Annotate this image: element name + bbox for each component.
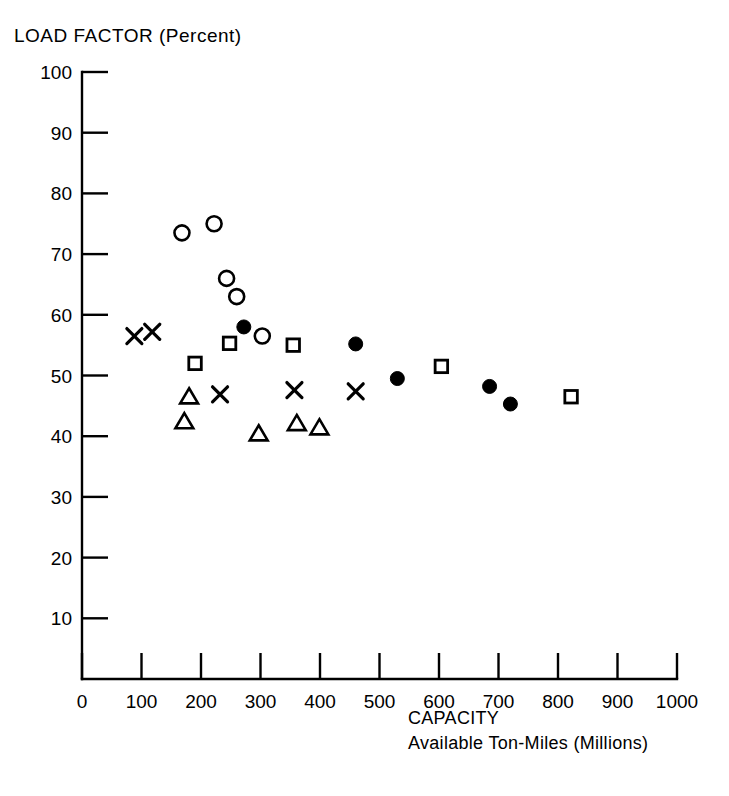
x-axis-tick-label: 300: [245, 691, 277, 712]
y-axis-tick-label: 70: [51, 244, 72, 265]
x-axis-tick-label: 800: [542, 691, 574, 712]
marker-triangle-open-icon: [175, 413, 193, 428]
marker-square-open-icon: [223, 337, 236, 350]
y-axis-tick-label: 30: [51, 487, 72, 508]
series-open-triangle: [175, 388, 328, 440]
marker-circle-open-icon: [207, 216, 222, 231]
marker-circle-filled-icon: [349, 337, 363, 351]
marker-square-open-icon: [435, 360, 448, 373]
x-axis-tick-label: 900: [602, 691, 634, 712]
series-cross-x: [127, 324, 363, 402]
chart-figure: LOAD FACTOR (Percent) 102030405060708090…: [0, 0, 729, 796]
y-axis-tick-label: 60: [51, 305, 72, 326]
marker-square-open-icon: [565, 390, 578, 403]
y-axis-tick-label: 90: [51, 123, 72, 144]
marker-square-open-icon: [189, 357, 202, 370]
data-markers-group: [127, 216, 577, 440]
marker-circle-open-icon: [219, 271, 234, 286]
marker-triangle-open-icon: [250, 425, 268, 440]
series-open-square: [189, 337, 578, 403]
marker-circle-filled-icon: [390, 372, 404, 386]
marker-circle-filled-icon: [483, 379, 497, 393]
x-axis-label-secondary: Available Ton-Miles (Millions): [408, 733, 648, 754]
y-axis-tick-label: 20: [51, 548, 72, 569]
marker-triangle-open-icon: [180, 388, 198, 403]
x-axis-tick-label: 500: [364, 691, 396, 712]
y-axis-tick-label: 100: [40, 62, 72, 83]
x-axis-tick-label: 400: [304, 691, 336, 712]
axes-group: [82, 72, 677, 679]
x-axis-tick-label: 1000: [656, 691, 698, 712]
marker-circle-filled-icon: [503, 397, 517, 411]
x-axis-tick-label: 100: [126, 691, 158, 712]
x-axis-tick-label: 200: [185, 691, 217, 712]
marker-circle-filled-icon: [237, 320, 251, 334]
marker-triangle-open-icon: [310, 419, 328, 434]
x-axis-label-primary: CAPACITY: [408, 708, 499, 729]
marker-circle-open-icon: [174, 225, 189, 240]
chart-title: LOAD FACTOR (Percent): [14, 25, 242, 47]
marker-square-open-icon: [287, 339, 300, 352]
series-open-circle: [174, 216, 269, 343]
y-axis-tick-label: 80: [51, 183, 72, 204]
tick-labels-group: 1020304050607080901000100200300400500600…: [40, 62, 698, 712]
y-axis-tick-label: 50: [51, 366, 72, 387]
y-axis-tick-label: 40: [51, 426, 72, 447]
marker-circle-open-icon: [255, 329, 270, 344]
scatter-plot-canvas: 1020304050607080901000100200300400500600…: [0, 0, 729, 796]
marker-circle-open-icon: [229, 289, 244, 304]
y-axis-tick-label: 10: [51, 608, 72, 629]
x-axis-tick-label: 0: [77, 691, 88, 712]
series-filled-circle: [237, 320, 518, 411]
marker-triangle-open-icon: [288, 415, 306, 430]
